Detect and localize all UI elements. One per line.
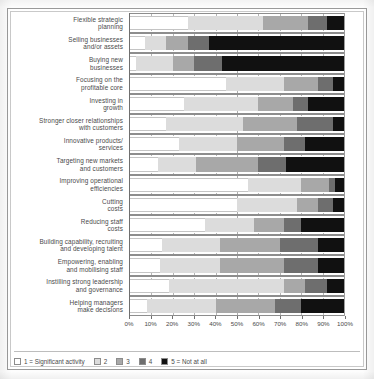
bar-segment-3: [220, 258, 284, 272]
bar-segment-2: [248, 178, 302, 192]
category-label-line: costs: [5, 205, 123, 212]
stacked-bar: [130, 137, 344, 151]
category-label: Targeting new marketsand customers: [5, 157, 123, 172]
bar-segment-2: [147, 299, 215, 313]
bar-segment-2: [205, 218, 254, 232]
bar-segment-5: [333, 77, 344, 91]
category-label: Stronger closer relationshipswith custom…: [5, 117, 123, 132]
bar-segment-4: [284, 218, 301, 232]
bar-segment-1: [130, 77, 226, 91]
x-axis-tick: [172, 316, 173, 319]
bar-segment-4: [280, 238, 319, 252]
bar-rows: [130, 13, 344, 316]
bar-row: [130, 175, 344, 195]
category-label: Improving operationalefficiencies: [5, 177, 123, 192]
bar-segment-5: [301, 218, 344, 232]
x-axis-tick-label: 70%: [274, 320, 286, 327]
legend-swatch-3: [116, 358, 123, 365]
bar-segment-2: [184, 97, 259, 111]
bar-segment-5: [308, 97, 344, 111]
bar-segment-1: [130, 218, 205, 232]
bar-row: [130, 33, 344, 53]
bar-row: [130, 235, 344, 255]
category-label-line: make decisions: [5, 306, 123, 313]
bar-segment-3: [258, 97, 292, 111]
x-axis-tick-label: 20%: [166, 320, 178, 327]
bar-segment-2: [162, 238, 220, 252]
bar-row: [130, 215, 344, 235]
category-label-line: and governance: [5, 286, 123, 293]
legend-label: 3: [126, 358, 130, 365]
category-label: Selling businessesand/or assets: [5, 36, 123, 51]
bar-segment-1: [130, 137, 179, 151]
x-axis-tick-label: 80%: [296, 320, 308, 327]
stacked-bar: [130, 36, 344, 50]
bar-segment-1: [130, 36, 145, 50]
plot-area: [129, 13, 345, 316]
legend-swatch-5: [161, 358, 168, 365]
category-label: Helping managersmake decisions: [5, 299, 123, 314]
stacked-bar: [130, 238, 344, 252]
category-label-line: Cutting: [5, 198, 123, 205]
bar-segment-5: [327, 16, 344, 30]
legend-swatch-2: [94, 358, 101, 365]
x-axis-tick: [194, 316, 195, 319]
category-label-line: Targeting new markets: [5, 157, 123, 164]
bar-row: [130, 154, 344, 174]
bar-segment-4: [258, 157, 286, 171]
category-label-line: Innovative products/: [5, 137, 123, 144]
bar-segment-4: [284, 258, 318, 272]
category-label-line: Improving operational: [5, 177, 123, 184]
x-axis-tick-label: 100%: [337, 320, 353, 327]
bar-segment-1: [130, 97, 184, 111]
bar-segment-5: [333, 198, 344, 212]
x-axis-tick: [302, 316, 303, 319]
stacked-bar: [130, 218, 344, 232]
x-axis-tick-label: 0%: [125, 320, 134, 327]
stacked-bar: [130, 258, 344, 272]
category-label-line: and/or assets: [5, 43, 123, 50]
bar-segment-4: [188, 36, 209, 50]
bar-segment-1: [130, 258, 160, 272]
legend-swatch-1: [14, 358, 21, 365]
bar-segment-3: [263, 16, 308, 30]
bar-segment-5: [286, 157, 344, 171]
bar-segment-3: [237, 137, 284, 151]
category-label: Empowering, enablingand mobilising staff: [5, 258, 123, 273]
x-axis-tick-label: 90%: [317, 320, 329, 327]
x-axis-tick: [280, 316, 281, 319]
stacked-bar: [130, 198, 344, 212]
bar-row: [130, 94, 344, 114]
bar-segment-5: [335, 178, 344, 192]
bar-segment-3: [166, 36, 187, 50]
bar-segment-1: [130, 238, 162, 252]
bar-segment-3: [173, 56, 194, 70]
legend-label: 1 = Significant activity: [24, 358, 85, 365]
category-label-line: Reducing staff: [5, 218, 123, 225]
bar-segment-2: [158, 157, 197, 171]
category-label-line: profitable core: [5, 84, 123, 91]
bar-segment-1: [130, 198, 237, 212]
bar-row: [130, 255, 344, 275]
bar-segment-4: [194, 56, 222, 70]
category-label: Innovative products/services: [5, 137, 123, 152]
category-label-line: and mobilising staff: [5, 266, 123, 273]
stacked-bar: [130, 77, 344, 91]
bar-segment-2: [237, 198, 297, 212]
stacked-bar: [130, 178, 344, 192]
x-axis-tick: [151, 316, 152, 319]
bar-row: [130, 53, 344, 73]
legend-label: 2: [104, 358, 108, 365]
category-label-line: and customers: [5, 165, 123, 172]
bar-segment-4: [305, 279, 326, 293]
category-label-line: Flexible strategic: [5, 16, 123, 23]
bar-segment-1: [130, 279, 169, 293]
category-label: Investing ingrowth: [5, 97, 123, 112]
bar-segment-2: [226, 77, 284, 91]
category-label-line: Stronger closer relationships: [5, 117, 123, 124]
bar-segment-1: [130, 178, 248, 192]
bar-segment-3: [196, 157, 258, 171]
category-label: Flexible strategicplanning: [5, 16, 123, 31]
x-axis: 0%10%20%30%40%50%60%70%80%90%100%: [129, 316, 345, 334]
bar-segment-5: [222, 56, 344, 70]
